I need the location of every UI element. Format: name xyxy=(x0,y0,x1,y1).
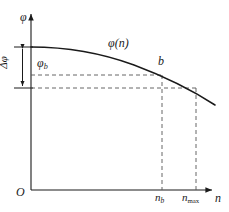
figure-container: φ n O Δφ φb φ(n) b nb nmax xyxy=(0,0,229,212)
y-axis-label-phi: φ xyxy=(20,11,27,23)
n-max-base: n xyxy=(182,191,188,203)
point-b-label: b xyxy=(158,55,164,67)
phi-b-subscript: b xyxy=(44,62,48,71)
phi-b-base: φ xyxy=(37,56,44,70)
n-b-base: n xyxy=(155,191,161,203)
phi-b-label: φb xyxy=(37,57,48,69)
diagram-canvas xyxy=(0,0,229,212)
origin-label: O xyxy=(16,186,25,198)
x-axis-label-n: n xyxy=(215,192,221,204)
curve-phi-of-n xyxy=(31,47,215,105)
curve-label-phi-of-n: φ(n) xyxy=(108,37,129,49)
delta-phi-label: Δφ xyxy=(0,56,9,69)
n-b-label: nb xyxy=(155,192,164,203)
n-b-subscript: b xyxy=(161,196,165,205)
n-max-label: nmax xyxy=(182,192,199,203)
n-max-subscript: max xyxy=(188,197,200,204)
